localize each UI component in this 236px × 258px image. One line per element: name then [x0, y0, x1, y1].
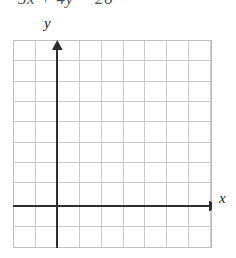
y-axis-label: y — [44, 16, 51, 31]
grid-graphic — [13, 40, 212, 248]
x-axis-label: x — [219, 191, 226, 206]
equation-text: 3x + 4y = 26 — [18, 0, 113, 8]
grid-plane — [13, 40, 212, 248]
equation-label: 3x + 4y = 26 — [18, 0, 218, 9]
grid-background — [13, 40, 212, 248]
x-axis-arrow-icon — [209, 201, 212, 212]
coordinate-grid-figure: 3x + 4y = 26 y x — [0, 0, 236, 258]
